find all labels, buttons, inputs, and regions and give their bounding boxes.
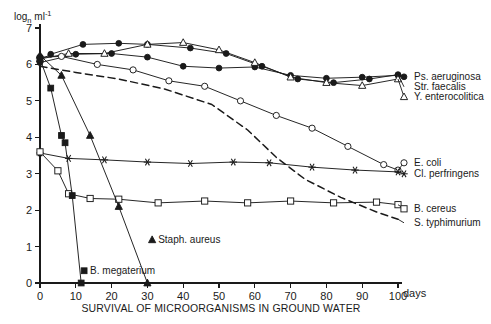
x-tick-label: 20 — [105, 290, 117, 302]
data-point-marker — [115, 203, 122, 210]
y-tick-label: 5 — [26, 95, 32, 107]
data-point-marker — [216, 65, 222, 71]
data-point-marker — [65, 50, 72, 57]
data-point-marker — [65, 155, 72, 162]
data-point-marker — [330, 200, 336, 206]
data-point-marker — [345, 143, 351, 149]
data-point-marker — [144, 159, 151, 166]
data-point-marker — [288, 198, 294, 204]
data-point-marker — [116, 40, 122, 46]
data-point-marker — [145, 54, 151, 60]
data-point-marker — [395, 202, 401, 208]
data-point-marker — [87, 132, 94, 139]
data-point-marker — [187, 45, 193, 51]
data-point-marker — [101, 157, 108, 164]
data-point-marker — [62, 140, 68, 146]
legend-leader-line — [398, 219, 404, 223]
data-point-marker — [55, 168, 61, 174]
chart-labels-layer: Ps. aeruginosaStr. faecalisY. enterocoli… — [81, 71, 484, 276]
data-point-marker — [401, 160, 407, 166]
data-point-marker — [80, 41, 86, 47]
legend-label-cl-perfringens: Cl. perfringens — [414, 168, 479, 179]
data-point-marker — [230, 159, 237, 166]
legend-label-y-enterocolitica: Y. enterocolitica — [414, 91, 484, 102]
data-point-marker — [59, 133, 65, 139]
chart-axes: 012345670102030405060708090100 — [26, 22, 407, 302]
legend-label-b-cereus: B. cereus — [414, 203, 456, 214]
y-tick-label: 1 — [26, 241, 32, 253]
series-s-typhimurium — [40, 66, 398, 219]
x-tick-label: 40 — [177, 290, 189, 302]
data-point-marker — [155, 200, 161, 206]
x-tick-label: 50 — [213, 290, 225, 302]
data-point-marker — [180, 39, 187, 46]
y-tick-label: 7 — [26, 22, 32, 34]
annotation-b-megaterium: B. megaterium — [90, 265, 155, 276]
data-point-marker — [366, 76, 372, 82]
data-point-marker — [81, 268, 87, 274]
data-point-marker — [94, 61, 100, 67]
data-point-marker — [78, 280, 84, 286]
data-point-marker — [308, 164, 315, 171]
data-point-marker — [149, 236, 156, 243]
x-tick-label: 80 — [320, 290, 332, 302]
data-point-marker — [309, 125, 315, 131]
data-point-marker — [265, 159, 272, 166]
data-point-marker — [381, 162, 387, 168]
series-path — [40, 56, 398, 170]
data-point-marker — [180, 63, 186, 69]
data-point-marker — [73, 51, 79, 57]
y-tick-label: 3 — [26, 168, 32, 180]
x-tick-label: 0 — [37, 290, 43, 302]
data-point-marker — [37, 149, 43, 155]
series-ps-aeruginosa — [37, 51, 401, 82]
y-tick-label: 0 — [26, 277, 32, 289]
data-point-marker — [373, 199, 379, 205]
data-point-marker — [69, 193, 75, 199]
series-cl-perfringens — [36, 150, 401, 176]
data-point-marker — [351, 167, 358, 174]
chart-figure: 012345670102030405060708090100 Ps. aerug… — [0, 0, 491, 324]
data-point-marker — [187, 160, 194, 167]
data-point-marker — [37, 56, 43, 62]
series-path — [40, 153, 398, 172]
data-point-marker — [166, 78, 172, 84]
x-tick-label: 90 — [356, 290, 368, 302]
data-point-marker — [48, 85, 54, 91]
data-point-marker — [237, 98, 243, 104]
annotation-staph-aureus: Staph. aureus — [158, 234, 220, 245]
data-point-marker — [400, 93, 407, 100]
survival-line-chart: 012345670102030405060708090100 Ps. aerug… — [0, 0, 491, 324]
legend-label-e-coli: E. coli — [414, 157, 441, 168]
data-point-marker — [401, 74, 407, 80]
data-point-marker — [401, 206, 407, 212]
data-point-marker — [202, 83, 208, 89]
data-point-marker — [273, 112, 279, 118]
x-tick-label: 10 — [70, 290, 82, 302]
x-tick-label: 30 — [141, 290, 153, 302]
legend-label-s-typhimurium: S. typhimurium — [414, 217, 481, 228]
series-b-cereus — [37, 149, 401, 208]
series-path — [40, 66, 398, 219]
x-tick-label: 70 — [284, 290, 296, 302]
data-point-marker — [87, 195, 93, 201]
data-point-marker — [58, 53, 64, 59]
data-point-marker — [202, 198, 208, 204]
y-tick-label: 2 — [26, 204, 32, 216]
chart-series-layer — [36, 39, 401, 286]
data-point-marker — [245, 200, 251, 206]
data-point-marker — [130, 67, 136, 73]
x-tick-label: 60 — [249, 290, 261, 302]
x-tick-label: 100 — [389, 290, 407, 302]
y-tick-label: 4 — [26, 131, 32, 143]
y-tick-label: 6 — [26, 58, 32, 70]
